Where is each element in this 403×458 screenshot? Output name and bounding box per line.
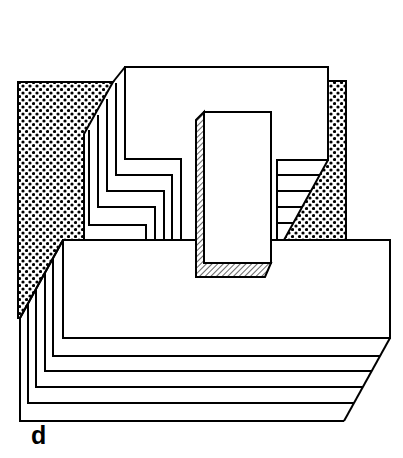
figure-label: d [31, 421, 46, 450]
pillar-front [204, 112, 271, 263]
diagram [0, 0, 403, 458]
